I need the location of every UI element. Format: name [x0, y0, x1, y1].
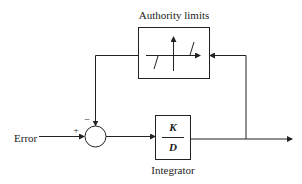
integrator-label: Integrator [151, 164, 195, 176]
feedback-line-to-sum [96, 56, 139, 126]
plus-sign: + [73, 125, 78, 135]
minus-sign: − [84, 114, 90, 125]
authority-limits-label: Authority limits [139, 9, 210, 21]
integrator-denominator: D [168, 141, 177, 153]
authority-limits-block [139, 28, 210, 79]
summing-junction [85, 126, 106, 147]
integrator-numerator: K [168, 121, 177, 133]
block-diagram: Authority limits − Error + K D Integrato… [0, 0, 302, 184]
error-label: Error [14, 132, 38, 144]
feedback-line-to-limits [210, 56, 246, 140]
integrator-block: K D [156, 116, 191, 160]
